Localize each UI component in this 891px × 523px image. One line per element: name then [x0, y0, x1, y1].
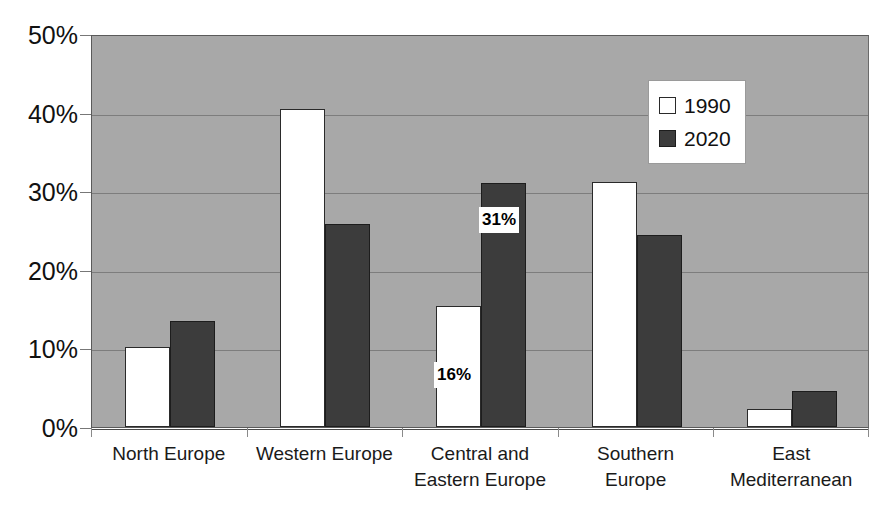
- category-label-line: Europe: [558, 467, 714, 493]
- x-axis-tick-mark: [247, 428, 248, 437]
- y-axis-tick-mark: [80, 35, 91, 36]
- category-label-line: Central and: [402, 441, 558, 467]
- hollow-square-swatch: [659, 97, 676, 114]
- bars-layer: 16%31%: [92, 36, 868, 427]
- category-label-line: North Europe: [91, 441, 247, 467]
- y-axis-tick-mark: [80, 428, 91, 429]
- x-axis-category-label: Central andEastern Europe: [402, 441, 558, 493]
- x-axis-tick-mark: [713, 428, 714, 437]
- bar-1990[interactable]: [592, 182, 637, 427]
- x-axis-category-labels: North EuropeWestern EuropeCentral andEas…: [91, 441, 869, 511]
- x-axis-tick-mark: [91, 428, 92, 437]
- y-axis-tick-mark: [80, 192, 91, 193]
- bar-1990[interactable]: [280, 109, 325, 427]
- bar-2020[interactable]: [792, 391, 837, 427]
- y-axis-tick-label: 10%: [28, 335, 78, 364]
- plot-area: 16%31%: [91, 35, 869, 428]
- bar-data-label: 16%: [434, 362, 474, 388]
- y-axis: 0%10%20%30%40%50%: [0, 0, 86, 523]
- x-axis-category-label: North Europe: [91, 441, 247, 467]
- y-axis-tick-mark: [80, 349, 91, 350]
- x-axis-category-label: EastMediterranean: [713, 441, 869, 493]
- bar-data-label: 31%: [479, 207, 519, 233]
- bar-group: [92, 36, 248, 427]
- bar-2020[interactable]: [170, 321, 215, 427]
- bar-chart-figure: 0%10%20%30%40%50% 16%31% North EuropeWes…: [0, 0, 891, 523]
- legend-label: 1990: [684, 95, 731, 116]
- category-label-line: Eastern Europe: [402, 467, 558, 493]
- x-axis-ticks: [91, 428, 869, 438]
- x-axis-tick-mark: [558, 428, 559, 437]
- category-label-line: Southern: [558, 441, 714, 467]
- bar-group: [248, 36, 404, 427]
- x-axis-tick-mark: [868, 428, 869, 437]
- y-axis-tick-label: 20%: [28, 256, 78, 285]
- x-axis-category-label: Western Europe: [247, 441, 403, 467]
- chart-title: [0, 0, 891, 5]
- bar-1990[interactable]: [125, 347, 170, 427]
- y-axis-tick-label: 50%: [28, 21, 78, 50]
- category-label-line: Mediterranean: [713, 467, 869, 493]
- legend-item-2020[interactable]: 2020: [659, 122, 745, 155]
- x-axis-tick-mark: [402, 428, 403, 437]
- category-label-line: East: [713, 441, 869, 467]
- category-label-line: Western Europe: [247, 441, 403, 467]
- x-axis-category-label: SouthernEurope: [558, 441, 714, 493]
- bar-2020[interactable]: [325, 224, 370, 427]
- y-axis-tick-label: 40%: [28, 99, 78, 128]
- bar-1990[interactable]: [747, 409, 792, 427]
- chart-legend: 1990 2020: [648, 80, 746, 164]
- y-axis-tick-mark: [80, 271, 91, 272]
- y-axis-tick-label: 30%: [28, 178, 78, 207]
- y-axis-tick-label: 0%: [42, 414, 78, 443]
- filled-square-swatch: [659, 130, 676, 147]
- y-axis-tick-mark: [80, 114, 91, 115]
- legend-label: 2020: [684, 128, 731, 149]
- bar-2020[interactable]: [637, 235, 682, 427]
- legend-item-1990[interactable]: 1990: [659, 89, 745, 122]
- bar-group: 16%31%: [403, 36, 559, 427]
